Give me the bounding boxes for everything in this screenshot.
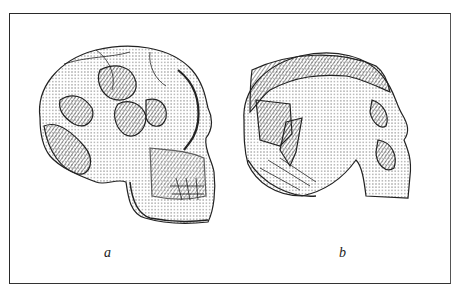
panel-label-b: b <box>339 245 346 261</box>
skull-a-drawing <box>0 0 461 299</box>
panel-label-a: a <box>104 245 111 261</box>
skull-a <box>40 46 215 223</box>
skull-b <box>244 53 411 198</box>
